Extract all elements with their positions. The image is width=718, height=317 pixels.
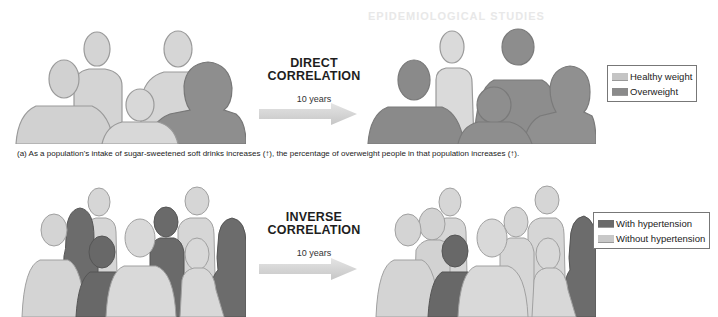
- population-silhouettes-icon: [364, 14, 596, 144]
- right-arrow-icon: [259, 102, 359, 130]
- panel-b-after-population: [364, 180, 596, 317]
- figure-caption-a: (a) As a population's intake of sugar-sw…: [17, 149, 519, 158]
- direct-correlation-label: DIRECT CORRELATION: [254, 57, 374, 83]
- legend-item-with-hypertension: With hypertension: [598, 216, 705, 231]
- legend-item-overweight: Overweight: [612, 84, 692, 99]
- legend-label: Overweight: [630, 86, 678, 97]
- light-swatch-icon: [598, 235, 614, 243]
- inverse-correlation-label: INVERSE CORRELATION: [254, 211, 374, 237]
- right-arrow-icon: [259, 257, 359, 285]
- panel-b-before-population: [14, 180, 246, 317]
- panel-a-before-population: [14, 14, 246, 144]
- legend-label: Healthy weight: [630, 71, 692, 82]
- legend-hypertension: With hypertension Without hypertension: [593, 212, 710, 249]
- light-swatch-icon: [612, 73, 628, 81]
- population-silhouettes-icon: [14, 180, 246, 317]
- panel-a-after-population: [364, 14, 596, 144]
- correlation-label-line2: CORRELATION: [254, 224, 374, 237]
- legend-item-healthy-weight: Healthy weight: [612, 69, 692, 84]
- legend-item-without-hypertension: Without hypertension: [598, 231, 705, 246]
- dark-swatch-icon: [598, 220, 614, 228]
- correlation-label-line2: CORRELATION: [254, 70, 374, 83]
- legend-label: With hypertension: [616, 218, 692, 229]
- population-silhouettes-icon: [14, 14, 246, 144]
- population-silhouettes-icon: [364, 180, 596, 317]
- dark-swatch-icon: [612, 88, 628, 96]
- legend-weight: Healthy weight Overweight: [607, 65, 697, 102]
- legend-label: Without hypertension: [616, 233, 705, 244]
